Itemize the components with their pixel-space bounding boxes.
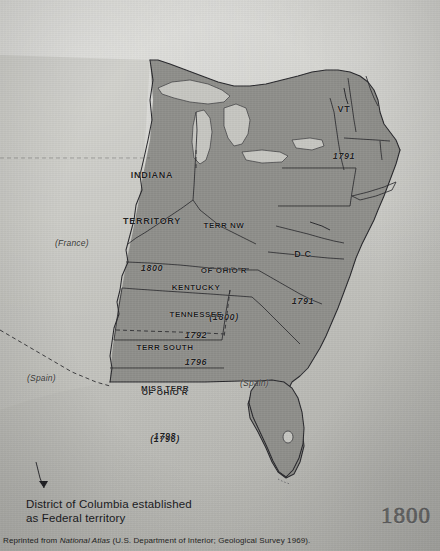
figure-caption: District of Columbia established as Fede… — [26, 497, 192, 525]
map-figure: INDIANA TERRITORY 1800 TERR NW OF OHIO R… — [0, 0, 440, 551]
source-credit: Reprinted from National Atlas (U.S. Depa… — [3, 536, 310, 545]
label-louisiana-france: (France) — [55, 238, 89, 248]
label-dc-year: 1791 — [283, 296, 323, 306]
caption-line-1: District of Columbia established — [26, 497, 192, 511]
label-indiana-territory-line1: INDIANA — [110, 170, 194, 180]
credit-publication: National Atlas — [60, 536, 110, 545]
label-terr-nw-line1: TERR NW — [182, 222, 266, 231]
label-vermont-name: VT — [323, 104, 365, 114]
label-miss-terr-name: MISS TERR — [120, 385, 210, 394]
label-spanish-florida: (Spain) — [240, 378, 269, 388]
date-stamp: 1800 — [381, 503, 431, 529]
label-district-of-columbia: D C 1791 — [283, 213, 323, 342]
credit-prefix: Reprinted from — [3, 536, 60, 545]
pointer-arrowhead — [39, 481, 48, 488]
label-vermont: VT 1791 — [323, 68, 365, 197]
label-miss-terr-year: 1798 — [120, 431, 210, 441]
credit-suffix: (U.S. Department of Interior; Geological… — [110, 536, 310, 545]
caption-line-2: as Federal territory — [26, 511, 192, 525]
label-dc-name: D C — [283, 249, 323, 259]
label-vermont-year: 1791 — [323, 151, 365, 161]
label-mississippi-territory: MISS TERR 1798 — [120, 349, 210, 476]
label-spanish-west: (Spain) — [27, 373, 56, 383]
